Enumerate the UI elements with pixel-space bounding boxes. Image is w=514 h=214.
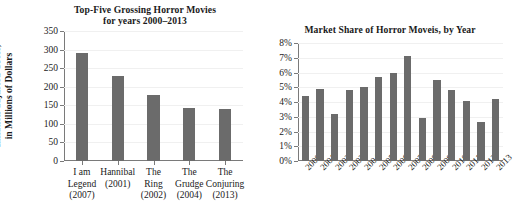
left-y-axis-label-line2: in Millions of Dollars xyxy=(2,45,14,148)
bar xyxy=(360,87,367,161)
y-axis-tick xyxy=(60,142,64,143)
x-axis-tick xyxy=(154,161,155,165)
bar xyxy=(477,122,484,161)
gridline xyxy=(64,87,243,88)
left-chart-title-line1: Top-Five Grossing Horror Movies xyxy=(74,4,216,15)
x-axis-tick-label: TheRing(2002) xyxy=(141,167,166,202)
right-chart-title: Market Share of Horror Moveis, by Year xyxy=(278,24,502,35)
gridline xyxy=(298,43,503,44)
bar xyxy=(404,56,411,161)
gridline xyxy=(64,50,243,51)
y-axis-tick xyxy=(294,161,298,162)
bar xyxy=(112,76,124,161)
gridline xyxy=(298,73,503,74)
y-axis-tick-label: 7% xyxy=(279,53,292,63)
gridline xyxy=(64,68,243,69)
y-axis-tick xyxy=(60,161,64,162)
bar xyxy=(219,109,231,161)
gridline xyxy=(298,102,503,103)
left-chart-title: Top-Five Grossing Horror Movies for year… xyxy=(28,4,262,26)
x-axis-tick xyxy=(118,161,119,165)
x-axis-tick-label: Hannibal(2001) xyxy=(100,167,135,190)
x-axis-tick-label-line: (2007) xyxy=(68,190,97,202)
y-axis-tick xyxy=(60,31,64,32)
y-axis-tick-label: 250 xyxy=(44,63,58,73)
x-axis-tick xyxy=(225,161,226,165)
left-chart-plot-area: 050100150200250300350I amLegend(2007)Han… xyxy=(64,31,243,161)
x-axis-tick-label-line: The xyxy=(206,167,245,179)
y-axis-tick xyxy=(294,73,298,74)
bar xyxy=(463,101,470,161)
x-axis-tick-label-line: (2013) xyxy=(206,190,245,202)
right-chart-title-line1: Market Share of Horror Moveis, by Year xyxy=(304,24,475,35)
right-chart-plot-area: 0%1%2%3%4%5%6%7%8%2000200120022003200420… xyxy=(298,43,503,161)
y-axis-tick-label: 4% xyxy=(279,97,292,107)
bar xyxy=(316,89,323,161)
y-axis-tick-label: 0 xyxy=(53,156,58,166)
x-axis-tick-label-line: (2001) xyxy=(100,179,135,191)
bar xyxy=(375,77,382,161)
left-chart-y-axis-label: Inflation-adjusted Gross, in Millions of… xyxy=(0,45,14,148)
bar xyxy=(419,118,426,162)
y-axis-tick-label: 2% xyxy=(279,127,292,137)
y-axis-tick xyxy=(294,87,298,88)
chart-top-five-grossing-horror-movies: Top-Five Grossing Horror Movies for year… xyxy=(0,0,262,214)
x-axis-tick-label: TheConjuring(2013) xyxy=(206,167,245,202)
x-axis-tick-label-line: Grudge xyxy=(175,179,204,191)
bar xyxy=(346,90,353,161)
figure-two-bar-charts: Top-Five Grossing Horror Movies for year… xyxy=(0,0,514,214)
x-axis-tick-label-line: Hannibal xyxy=(100,167,135,179)
y-axis-tick xyxy=(294,102,298,103)
y-axis-tick-label: 100 xyxy=(44,119,58,129)
bar xyxy=(331,114,338,161)
y-axis-tick xyxy=(294,132,298,133)
gridline xyxy=(298,58,503,59)
y-axis-tick-label: 50 xyxy=(49,137,59,147)
bar xyxy=(390,73,397,162)
gridline xyxy=(298,87,503,88)
gridline xyxy=(298,117,503,118)
x-axis-tick-label-line: Conjuring xyxy=(206,179,245,191)
bar xyxy=(302,96,309,161)
y-axis-tick-label: 200 xyxy=(44,82,58,92)
x-axis-tick-label-line: The xyxy=(175,167,204,179)
x-axis-tick-label-line: Ring xyxy=(141,179,166,191)
x-axis-tick xyxy=(189,161,190,165)
y-axis-tick-label: 8% xyxy=(279,38,292,48)
bar xyxy=(448,90,455,161)
y-axis-tick xyxy=(294,43,298,44)
chart-market-share-of-horror-movies: Market Share of Horror Moveis, by Year 0… xyxy=(262,0,514,214)
x-axis-tick-label-line: I am xyxy=(68,167,97,179)
y-axis-tick xyxy=(60,105,64,106)
x-axis-tick xyxy=(82,161,83,165)
gridline xyxy=(298,132,503,133)
y-axis-tick-label: 150 xyxy=(44,100,58,110)
y-axis-tick xyxy=(60,50,64,51)
bar xyxy=(433,80,440,161)
x-axis-tick-label-line: (2002) xyxy=(141,190,166,202)
bar xyxy=(183,108,195,161)
x-axis-tick-label: I amLegend(2007) xyxy=(68,167,97,202)
y-axis-tick xyxy=(60,68,64,69)
y-axis-tick xyxy=(294,58,298,59)
y-axis-tick-label: 5% xyxy=(279,82,292,92)
y-axis-tick-label: 300 xyxy=(44,45,58,55)
y-axis-tick xyxy=(60,124,64,125)
x-axis-tick-label-line: Legend xyxy=(68,179,97,191)
y-axis-tick xyxy=(60,87,64,88)
y-axis-tick xyxy=(294,117,298,118)
bar xyxy=(147,95,159,161)
x-axis-tick-label: TheGrudge(2004) xyxy=(175,167,204,202)
y-axis-tick xyxy=(294,146,298,147)
y-axis-tick-label: 350 xyxy=(44,26,58,36)
y-axis-tick-label: 0% xyxy=(279,156,292,166)
bar xyxy=(492,99,499,161)
y-axis-tick-label: 1% xyxy=(279,141,292,151)
y-axis-tick-label: 3% xyxy=(279,112,292,122)
y-axis-tick-label: 6% xyxy=(279,68,292,78)
gridline xyxy=(298,146,503,147)
bar xyxy=(76,53,88,161)
left-chart-title-line2: for years 2000–2013 xyxy=(28,15,262,26)
x-axis-tick-label-line: The xyxy=(141,167,166,179)
gridline xyxy=(64,31,243,32)
